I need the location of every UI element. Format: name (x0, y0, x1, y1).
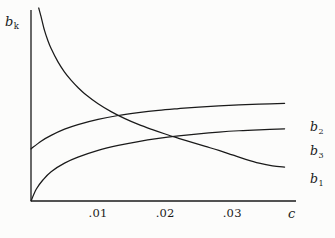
y-axis-label: bk (5, 14, 18, 29)
curve-label-b3-subscript: 3 (318, 151, 323, 160)
x-tick-label-2: .03 (223, 206, 242, 220)
curve-label-b2-subscript: 2 (318, 127, 323, 136)
curve-b1 (39, 8, 285, 167)
x-tick-label-1: .02 (156, 206, 175, 220)
axes (31, 10, 296, 201)
curve-b2 (31, 103, 285, 149)
curve-label-b1-base: b (310, 171, 318, 186)
curve-label-b2-base: b (310, 119, 318, 134)
curve-b3 (31, 129, 285, 201)
chart-figure: bk c .01 .02 .03 b2 b3 b1 (0, 0, 335, 238)
plot-canvas (0, 0, 335, 238)
curve-label-b2: b2 (310, 119, 323, 134)
data-curves (31, 8, 285, 201)
curve-label-b1-subscript: 1 (318, 179, 323, 188)
x-axis-label: c (288, 206, 295, 221)
x-tick-label-0: .01 (89, 206, 108, 220)
curve-label-b3: b3 (310, 143, 323, 158)
y-axis-label-base: b (5, 14, 13, 29)
curve-label-b3-base: b (310, 143, 318, 158)
y-axis-label-subscript: k (14, 21, 19, 31)
curve-label-b1: b1 (310, 171, 323, 186)
